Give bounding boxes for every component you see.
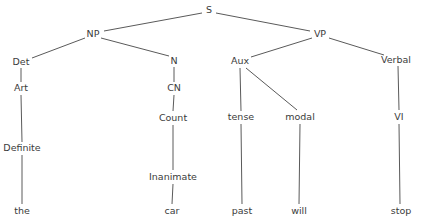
tree-edge-tense-to-past [241, 124, 242, 204]
tree-edge-Verbal-to-VI [398, 66, 399, 110]
tree-node-CN: CN [167, 82, 181, 93]
tree-node-will: will [291, 205, 307, 216]
tree-node-tense: tense [228, 111, 255, 122]
syntax-tree-canvas: SNPVPDetNAuxVerbalArtCNCounttensemodalVI… [0, 0, 423, 223]
tree-edge-VI-to-stop [399, 124, 400, 204]
tree-edge-NP-to-Det [32, 38, 85, 58]
tree-edge-S-to-NP [104, 13, 202, 31]
tree-node-car: car [165, 205, 180, 216]
tree-node-Verbal: Verbal [381, 54, 411, 65]
tree-edge-NP-to-N [101, 38, 169, 56]
tree-node-NP: NP [87, 28, 100, 39]
tree-node-stop: stop [391, 205, 412, 216]
tree-node-Inanimate: Inanimate [149, 171, 197, 182]
tree-edge-layer [21, 13, 400, 204]
tree-node-N: N [170, 55, 177, 66]
tree-node-S: S [206, 4, 212, 15]
tree-node-modal: modal [285, 111, 315, 122]
tree-node-Count: Count [159, 112, 187, 123]
tree-edge-S-to-VP [216, 13, 310, 31]
tree-edge-CN-to-Count [173, 95, 174, 111]
tree-node-Art: Art [14, 82, 28, 93]
tree-edge-modal-to-will [299, 124, 300, 204]
syntax-tree-figure: SNPVPDetNAuxVerbalArtCNCounttensemodalVI… [0, 0, 423, 223]
tree-edge-Inanimate-to-car [172, 184, 173, 204]
tree-node-VI: VI [394, 111, 403, 122]
tree-node-Definite: Definite [3, 142, 41, 153]
tree-edge-Art-to-Definite [21, 95, 22, 142]
tree-node-Aux: Aux [231, 55, 250, 66]
tree-edge-Aux-to-tense [240, 68, 241, 111]
tree-node-VP: VP [314, 28, 326, 39]
tree-node-Det: Det [13, 56, 30, 67]
tree-edge-Aux-to-modal [246, 68, 297, 110]
tree-node-past: past [232, 205, 253, 216]
tree-node-the: the [14, 205, 30, 216]
tree-node-layer: SNPVPDetNAuxVerbalArtCNCounttensemodalVI… [3, 4, 411, 216]
tree-edge-VP-to-Verbal [329, 38, 384, 55]
tree-edge-VP-to-Aux [251, 38, 312, 57]
